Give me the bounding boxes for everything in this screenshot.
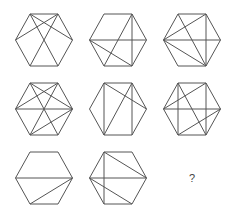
hexagon-figure-4 xyxy=(16,83,73,135)
hexagon-figure-8 xyxy=(90,152,147,204)
hexagon-figure-1 xyxy=(16,14,73,66)
diagonal-line xyxy=(178,109,221,135)
diagonal-line xyxy=(164,40,207,66)
hexagon-figure-5 xyxy=(90,83,147,135)
hexagon-figure-7 xyxy=(16,152,73,204)
diagonal-line xyxy=(30,178,73,204)
hexagon-figure-3 xyxy=(164,14,221,66)
puzzle-grid xyxy=(0,0,229,218)
diagonal-line xyxy=(90,40,133,66)
diagonal-line xyxy=(104,152,147,178)
diagonal-line xyxy=(164,14,207,40)
diagonal-line xyxy=(104,83,132,135)
hexagon-figure-6 xyxy=(164,83,221,135)
diagonal-line xyxy=(90,178,133,204)
diagonal-line xyxy=(30,109,73,135)
missing-answer-mark: ? xyxy=(189,172,195,184)
hexagon-figure-2 xyxy=(90,14,147,66)
